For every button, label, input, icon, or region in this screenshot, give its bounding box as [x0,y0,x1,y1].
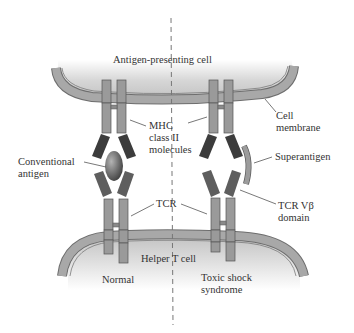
label-cell-membrane-line1: Cell [276,110,294,122]
label-mhc-line3: molecules [149,144,192,156]
label-toxic-shock-line1: Toxic shock [201,272,252,284]
label-normal: Normal [102,274,134,286]
label-superantigen: Superantigen [275,151,330,163]
label-conventional-antigen-line2: antigen [18,168,49,180]
label-helper-t-cell: Helper T cell [141,253,196,265]
conventional-antigen [105,151,123,181]
label-toxic-shock-line2: syndrome [201,284,242,296]
label-tcr: TCR [156,198,176,210]
label-cell-membrane-line2: membrane [276,122,320,134]
label-mhc-line1: MHC [149,120,173,132]
label-antigen-presenting-cell: Antigen-presenting cell [113,54,212,66]
label-conventional-antigen-line1: Conventional [18,156,75,168]
label-tcr-vb-line2: domain [278,212,310,224]
label-mhc-line2: class II [149,132,179,144]
label-tcr-vb-line1: TCR Vβ [278,200,314,212]
diagram-canvas: Antigen-presenting cell Cell membrane MH… [0,0,354,333]
